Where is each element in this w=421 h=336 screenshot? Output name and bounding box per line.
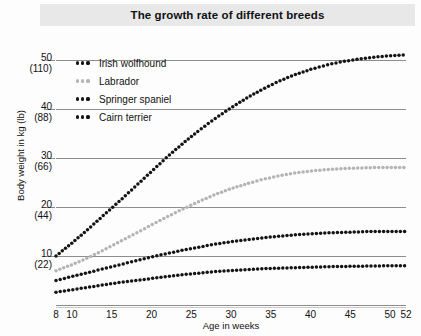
legend-label: Irish wolfhound [99, 58, 166, 69]
legend-item-2[interactable]: Labrador [76, 73, 226, 89]
legend-marker-dots-icon [76, 61, 95, 64]
gridline-y-20 [56, 207, 406, 208]
x-tick-label-35: 35 [265, 309, 276, 320]
chart-legend: Irish wolfhoundLabradorSpringer spanielC… [76, 55, 226, 127]
y-tick-lb: (110) [8, 63, 52, 74]
legend-marker-dots-icon [76, 79, 95, 82]
x-axis-title: Age in weeks [56, 320, 406, 331]
y-tick-kg: 10 [8, 249, 52, 259]
x-tick-label-10: 10 [66, 309, 77, 320]
legend-item-4[interactable]: Cairn terrier [76, 109, 226, 125]
legend-label: Springer spaniel [99, 94, 171, 105]
gridline-y-10 [56, 256, 406, 257]
x-tick-label-25: 25 [186, 309, 197, 320]
x-axis-line [56, 305, 406, 306]
x-tick-label-15: 15 [106, 309, 117, 320]
x-tick-label-20: 20 [146, 309, 157, 320]
legend-label: Cairn terrier [99, 112, 152, 123]
x-tick-label-40: 40 [305, 309, 316, 320]
y-tick-label-10: 10(22) [8, 249, 52, 270]
legend-marker-dots-icon [76, 115, 95, 118]
y-axis-tick-group: 10(22)20(44)30(66)40(88)50(110) [0, 0, 52, 336]
x-tick-label-45: 45 [345, 309, 356, 320]
y-axis-title: Body weight in kg (lb) [15, 91, 26, 221]
y-tick-kg: 50 [8, 53, 52, 63]
x-tick-label-52: 52 [400, 309, 411, 320]
x-tick-label-8: 8 [53, 309, 59, 320]
legend-label: Labrador [99, 76, 139, 87]
y-tick-label-50: 50(110) [8, 53, 52, 74]
legend-item-3[interactable]: Springer spaniel [76, 91, 226, 107]
y-tick-lb: (22) [8, 259, 52, 270]
gridline-y-30 [56, 158, 406, 159]
legend-marker-dots-icon [76, 97, 95, 100]
legend-item-1[interactable]: Irish wolfhound [76, 55, 226, 71]
chart-title: The growth rate of different breeds [40, 4, 415, 26]
x-tick-label-50: 50 [385, 309, 396, 320]
chart-figure: The growth rate of different breeds 10(2… [0, 0, 421, 336]
x-axis-line-shadow [56, 307, 406, 308]
x-tick-label-30: 30 [225, 309, 236, 320]
